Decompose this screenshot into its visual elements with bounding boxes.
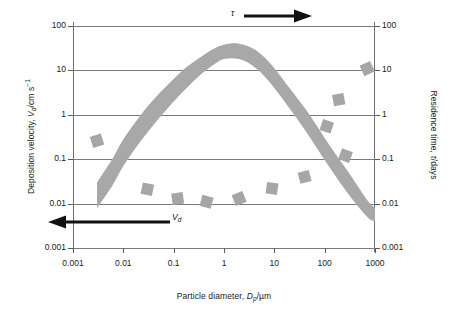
tau-arrow-right-icon xyxy=(244,6,314,26)
chart-figure: Deposition velocity, Vd/cm s−1 Residence… xyxy=(0,0,455,317)
y-axis-left-title-sup: −1 xyxy=(24,79,31,87)
vd-annotation-label: Vd xyxy=(172,212,181,223)
y-axis-right-tick-mark xyxy=(375,115,380,116)
x-axis-title-unit: /µm xyxy=(257,291,272,301)
y-axis-right-tick-label: 10 xyxy=(382,64,426,74)
y-axis-left-tick-label: 0.01 xyxy=(22,198,66,208)
y-axis-left-tick-label: 0.001 xyxy=(22,242,66,252)
x-axis-title: Particle diameter, Dp/µm xyxy=(73,291,375,302)
y-axis-right-tick-label: 0.01 xyxy=(382,198,426,208)
x-axis-tick-mark xyxy=(375,248,376,253)
data-point-marker xyxy=(200,195,214,209)
x-axis-tick-mark xyxy=(174,248,175,253)
y-axis-right-title: Residence time, τ/days xyxy=(429,35,439,235)
y-axis-right-tick-label: 1 xyxy=(382,109,426,119)
data-point-marker xyxy=(171,192,184,205)
data-point-marker xyxy=(320,119,334,133)
data-point-marker xyxy=(90,134,104,148)
vd-annotation-sub: d xyxy=(178,216,182,223)
vd-arrow-left-icon xyxy=(46,212,170,232)
y-axis-right-tick-mark xyxy=(375,159,380,160)
y-axis-left-tick-label: 100 xyxy=(22,20,66,30)
y-axis-right-tick-label: 0.1 xyxy=(382,153,426,163)
x-axis-tick-mark xyxy=(325,248,326,253)
x-axis-title-prefix: Particle diameter, xyxy=(177,291,247,301)
data-point-marker xyxy=(232,191,247,206)
y-axis-left-tick-label: 1 xyxy=(22,109,66,119)
y-axis-left-tick-label: 10 xyxy=(22,64,66,74)
y-axis-right-tick-label: 0.001 xyxy=(382,242,426,252)
x-axis-tick-mark xyxy=(224,248,225,253)
x-axis-tick-mark xyxy=(274,248,275,253)
x-axis-tick-mark xyxy=(123,248,124,253)
y-axis-right-tick-mark xyxy=(375,70,380,71)
y-axis-right-tick-label: 100 xyxy=(382,20,426,30)
y-axis-right-tick-mark xyxy=(375,26,380,27)
y-axis-right-title-prefix: Residence time, xyxy=(429,90,439,155)
tau-annotation-label: τ xyxy=(231,8,234,18)
data-point-marker xyxy=(332,93,345,106)
data-point-marker xyxy=(266,182,279,195)
data-point-marker xyxy=(141,182,155,196)
y-axis-right-tick-mark xyxy=(375,204,380,205)
x-axis-tick-label: 1000 xyxy=(345,258,405,268)
y-axis-left-title-unit: /cm s xyxy=(26,87,36,108)
y-axis-left-tick-label: 0.1 xyxy=(22,153,66,163)
data-point-marker xyxy=(298,170,312,184)
data-point-marker xyxy=(360,61,375,76)
x-axis-tick-mark xyxy=(73,248,74,253)
y-axis-right-title-unit: /days xyxy=(429,159,439,180)
